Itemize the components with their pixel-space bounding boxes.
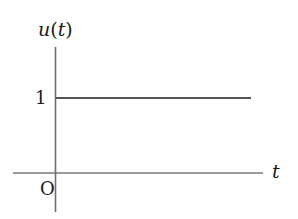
y-tick-label-one: 1 [35,89,46,107]
origin-label: O [40,180,55,198]
y-label-close-paren: ) [65,18,72,40]
y-label-func: u [38,18,50,40]
y-axis-label: u(t) [38,20,73,39]
step-function-diagram: u(t) 1 O t [0,0,298,219]
y-label-open-paren: ( [50,18,57,40]
x-axis-label: t [272,162,280,181]
